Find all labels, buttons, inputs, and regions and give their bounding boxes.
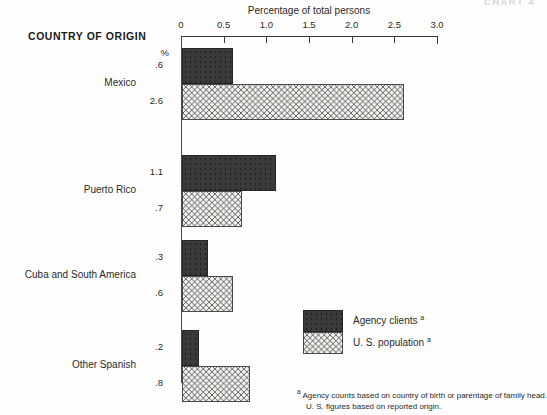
x-axis-tick-label: 3.0 bbox=[430, 19, 443, 30]
bar bbox=[182, 276, 233, 312]
bar bbox=[182, 191, 242, 227]
percent-symbol-label: % bbox=[145, 47, 169, 58]
legend-footnote-marker: a bbox=[427, 336, 431, 343]
bar bbox=[182, 48, 233, 84]
category-label: Puerto Rico bbox=[0, 184, 140, 195]
x-axis-tick bbox=[437, 36, 438, 44]
chart-id-label: CHART 4 bbox=[484, 0, 535, 7]
legend-swatch bbox=[303, 310, 343, 332]
x-axis-tick-label: 0.5 bbox=[217, 19, 230, 30]
bar-value-label: .3 bbox=[0, 251, 170, 262]
bar-value-label: .2 bbox=[0, 341, 170, 352]
bar-value-label: .6 bbox=[0, 287, 170, 298]
legend-label: U. S. population a bbox=[353, 336, 431, 348]
x-axis-tick bbox=[352, 36, 353, 43]
bar bbox=[182, 366, 250, 402]
x-axis-tick bbox=[309, 36, 310, 43]
category-label: Mexico bbox=[0, 77, 140, 88]
bar-value-label: 2.6 bbox=[0, 95, 170, 106]
x-axis-tick-label: 0 bbox=[178, 19, 183, 30]
legend-label: Agency clients a bbox=[353, 314, 424, 326]
bar-value-label: 1.1 bbox=[0, 166, 170, 177]
x-axis-tick-label: 1.5 bbox=[302, 19, 315, 30]
footnote-line-1: Agency counts based on country of birth … bbox=[302, 391, 547, 400]
footnote-marker: a bbox=[297, 388, 301, 395]
footnote: a Agency counts based on country of birt… bbox=[297, 386, 547, 413]
bar-value-label: .6 bbox=[0, 59, 170, 70]
country-of-origin-heading: COUNTRY OF ORIGIN bbox=[28, 30, 146, 42]
bar bbox=[182, 330, 199, 366]
x-axis-tick-label: 2.5 bbox=[388, 19, 401, 30]
bar-value-label: .8 bbox=[0, 377, 170, 388]
x-axis-tick bbox=[224, 36, 225, 43]
bar-value-label: .7 bbox=[0, 202, 170, 213]
x-axis-tick bbox=[266, 36, 267, 43]
category-label: Cuba and South America bbox=[0, 269, 140, 280]
bar bbox=[182, 240, 208, 276]
legend-footnote-marker: a bbox=[420, 314, 424, 321]
bar bbox=[182, 84, 404, 120]
category-label: Other Spanish bbox=[0, 359, 140, 370]
x-axis-title: Percentage of total persons bbox=[181, 5, 437, 16]
x-axis-tick-label: 2.0 bbox=[345, 19, 358, 30]
x-axis-tick-label: 1.0 bbox=[260, 19, 273, 30]
x-axis-tick bbox=[394, 36, 395, 43]
legend-swatch bbox=[303, 332, 343, 354]
bar bbox=[182, 155, 276, 191]
footnote-line-2: U. S. figures based on reported origin. bbox=[297, 401, 547, 413]
